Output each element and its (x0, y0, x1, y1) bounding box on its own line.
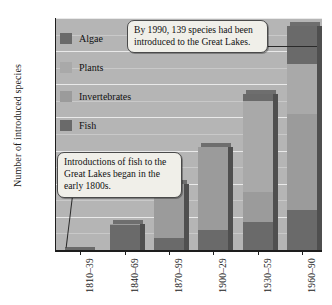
callout-1990-species: By 1990, 139 species had been introduced… (127, 20, 268, 53)
legend-label-plants: Plants (79, 62, 103, 73)
bar-segment-plants (243, 101, 273, 192)
bar-side-shadow (228, 147, 233, 250)
callout-fish-introductions: Introductions of fish to the Great Lakes… (57, 152, 182, 198)
legend-item-fish: Fish (60, 111, 180, 140)
bar-segment-fish (198, 230, 228, 250)
bar-top-face (246, 90, 276, 94)
bar-segment-fish (287, 210, 317, 250)
bar-segment-fish (110, 225, 140, 250)
bar-segment-plants (287, 64, 317, 114)
gridline-140 (56, 18, 322, 19)
legend-swatch-invertebrates (60, 91, 72, 102)
x-axis-label-1810–39: 1810–39 (85, 258, 95, 293)
legend-item-invertebrates: Invertebrates (60, 82, 180, 111)
x-tick-1840–69 (125, 250, 126, 255)
gridline-20 (56, 217, 322, 218)
bar-segment-invertebrates (110, 224, 140, 226)
x-axis-label-1930–59: 1930–59 (263, 258, 273, 293)
bar-segment-algae (243, 94, 273, 101)
legend-swatch-fish (60, 120, 72, 131)
legend-label-fish: Fish (79, 120, 96, 131)
bar-segment-invertebrates (243, 192, 273, 222)
x-axis-line (55, 250, 322, 252)
legend-swatch-plants (60, 62, 72, 73)
legend-label-algae: Algae (79, 33, 103, 44)
x-tick-1810–39 (80, 250, 81, 255)
bar-top-face (290, 22, 320, 26)
bar-1840–69 (110, 224, 140, 251)
legend-item-plants: Plants (60, 53, 180, 82)
bar-side-shadow (184, 184, 189, 250)
x-axis-label-1840–69: 1840–69 (130, 258, 140, 293)
y-axis-ticks: 020406080100120140 (0, 0, 55, 305)
bar-1900–29 (198, 147, 228, 250)
bar-segment-invertebrates (287, 114, 317, 210)
legend-swatch-algae (60, 33, 72, 44)
x-tick-1900–29 (213, 250, 214, 255)
bar-side-shadow (273, 94, 278, 250)
bar-side-shadow (317, 26, 322, 250)
x-axis-label-1900–29: 1900–29 (218, 258, 228, 293)
x-axis-label-1870–99: 1870–99 (174, 258, 184, 293)
bar-top-face (113, 220, 143, 224)
x-tick-1870–99 (169, 250, 170, 255)
legend-label-invertebrates: Invertebrates (79, 91, 131, 102)
bar-1960–90 (287, 26, 317, 250)
gridline-30 (56, 200, 322, 201)
bar-1930–59 (243, 94, 273, 250)
x-tick-1960–90 (302, 250, 303, 255)
stacked-bar-chart: Number of introduced species 02040608010… (0, 0, 332, 305)
bar-segment-invertebrates (198, 147, 228, 230)
gridline-10 (56, 233, 322, 234)
x-tick-1930–59 (258, 250, 259, 255)
bar-top-face (201, 143, 231, 147)
bar-segment-fish (243, 222, 273, 250)
bar-side-shadow (140, 224, 145, 251)
bar-segment-fish (154, 238, 184, 250)
x-axis-label-1960–90: 1960–90 (307, 258, 317, 293)
